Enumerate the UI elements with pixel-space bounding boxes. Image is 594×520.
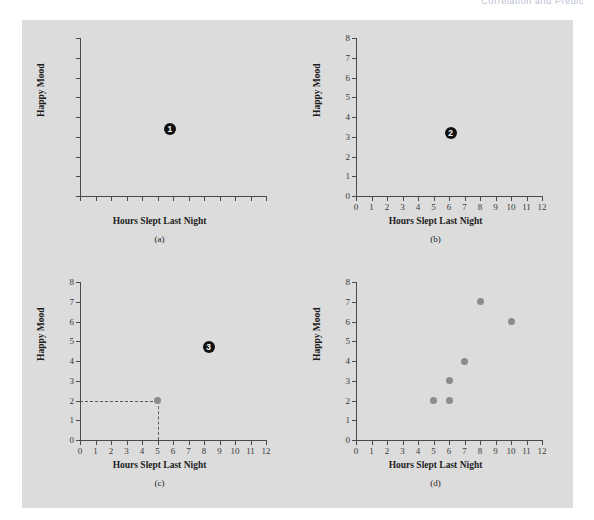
x-tick-label: 11 xyxy=(522,202,531,212)
x-tick-label: 4 xyxy=(416,202,421,212)
numbered-badge-3: 3 xyxy=(203,341,215,353)
guide-line-vertical xyxy=(158,401,159,441)
y-tick xyxy=(352,420,356,421)
x-tick-label: 6 xyxy=(447,202,452,212)
y-tick xyxy=(76,302,80,303)
guide-line-horizontal xyxy=(80,401,158,402)
data-point xyxy=(477,298,484,305)
x-tick xyxy=(220,197,221,201)
x-tick xyxy=(96,441,97,445)
x-tick-label: 6 xyxy=(447,446,452,456)
numbered-badge-1: 1 xyxy=(164,123,176,135)
chart-panel-b: 01234567801234567891011122Happy MoodHour… xyxy=(298,20,573,264)
chart-panel-d: 0123456780123456789101112Happy MoodHours… xyxy=(298,264,573,508)
x-tick xyxy=(251,197,252,201)
x-tick xyxy=(142,197,143,201)
x-tick-label: 10 xyxy=(507,202,516,212)
y-tick-label: 2 xyxy=(346,152,351,162)
x-tick-label: 2 xyxy=(385,446,390,456)
y-tick xyxy=(352,401,356,402)
y-tick xyxy=(352,361,356,362)
y-tick-label: 2 xyxy=(70,396,75,406)
x-tick-label: 5 xyxy=(155,446,160,456)
x-axis-title: Hours Slept Last Night xyxy=(298,460,573,470)
x-tick xyxy=(204,441,205,445)
y-tick-label: 4 xyxy=(346,356,351,366)
plot-area-a: 1 xyxy=(80,38,266,196)
y-axis-line xyxy=(80,38,81,197)
x-tick-label: 12 xyxy=(262,446,271,456)
y-tick xyxy=(352,78,356,79)
x-tick xyxy=(127,441,128,445)
x-tick xyxy=(173,197,174,201)
x-tick xyxy=(189,441,190,445)
x-tick-label: 8 xyxy=(202,446,207,456)
y-tick xyxy=(352,282,356,283)
panel-caption: (d) xyxy=(298,478,573,488)
y-tick-label: 6 xyxy=(70,317,75,327)
x-tick-label: 9 xyxy=(217,446,222,456)
x-tick xyxy=(418,441,419,445)
y-tick-label: 5 xyxy=(346,92,351,102)
y-tick xyxy=(352,341,356,342)
x-tick-label: 3 xyxy=(400,446,405,456)
y-tick-label: 3 xyxy=(70,376,75,386)
data-point xyxy=(461,358,468,365)
y-tick xyxy=(76,341,80,342)
x-tick-label: 11 xyxy=(246,446,255,456)
x-tick-label: 4 xyxy=(140,446,145,456)
y-tick-label: 0 xyxy=(70,435,75,445)
y-tick-label: 0 xyxy=(346,191,351,201)
x-tick xyxy=(111,197,112,201)
x-tick-label: 0 xyxy=(78,446,83,456)
x-tick xyxy=(387,441,388,445)
chart-panel-a: 1Happy MoodHours Slept Last Night(a) xyxy=(22,20,297,264)
x-tick xyxy=(356,197,357,201)
y-tick-label: 3 xyxy=(346,132,351,142)
x-tick-label: 5 xyxy=(431,202,436,212)
x-tick xyxy=(527,441,528,445)
data-point xyxy=(430,397,437,404)
x-tick xyxy=(542,197,543,201)
x-tick xyxy=(266,197,267,201)
x-tick-label: 2 xyxy=(385,202,390,212)
y-axis-title: Happy Mood xyxy=(312,307,322,361)
x-tick-label: 4 xyxy=(416,446,421,456)
data-point xyxy=(446,397,453,404)
chart-panel-c: 01234567801234567891011123Happy MoodHour… xyxy=(22,264,297,508)
y-tick xyxy=(76,282,80,283)
x-tick xyxy=(356,441,357,445)
x-tick-label: 10 xyxy=(231,446,240,456)
y-tick xyxy=(352,157,356,158)
y-tick xyxy=(352,302,356,303)
x-tick xyxy=(496,197,497,201)
y-tick xyxy=(76,381,80,382)
x-tick xyxy=(173,441,174,445)
y-tick-label: 7 xyxy=(70,297,75,307)
panel-caption: (b) xyxy=(298,234,573,244)
x-tick xyxy=(80,441,81,445)
x-tick xyxy=(80,197,81,201)
y-tick xyxy=(76,97,80,98)
x-tick xyxy=(127,197,128,201)
y-tick-label: 1 xyxy=(70,415,75,425)
plot-area-d: 0123456780123456789101112 xyxy=(356,282,542,440)
y-tick xyxy=(76,78,80,79)
x-tick-label: 0 xyxy=(354,446,359,456)
x-tick-label: 5 xyxy=(431,446,436,456)
y-tick xyxy=(352,322,356,323)
y-axis-line xyxy=(356,282,357,441)
x-tick xyxy=(465,197,466,201)
x-axis-title: Hours Slept Last Night xyxy=(22,216,297,226)
x-tick-label: 8 xyxy=(478,202,483,212)
x-tick xyxy=(449,441,450,445)
y-tick xyxy=(352,176,356,177)
x-tick-label: 1 xyxy=(369,202,374,212)
data-point xyxy=(508,318,515,325)
y-tick xyxy=(76,176,80,177)
x-tick xyxy=(403,197,404,201)
plot-area-c: 01234567801234567891011123 xyxy=(80,282,266,440)
x-tick-label: 11 xyxy=(522,446,531,456)
x-tick-label: 7 xyxy=(186,446,191,456)
x-tick xyxy=(496,441,497,445)
